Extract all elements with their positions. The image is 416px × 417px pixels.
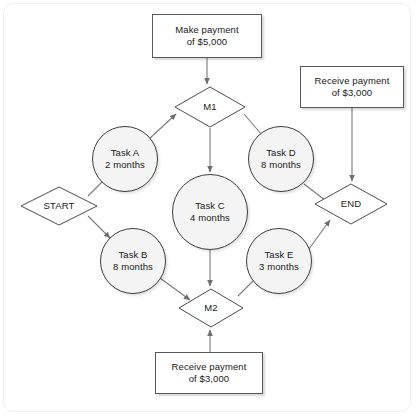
node-label-end: END [341, 198, 361, 210]
node-label-task-d: Task D 8 months [261, 147, 301, 171]
node-label-m2: M2 [204, 302, 217, 314]
node-receive-payment-3000-top[interactable]: Receive payment of $3,000 [300, 66, 404, 108]
node-task-b[interactable]: Task B 8 months [100, 228, 166, 294]
node-label-start: START [44, 200, 75, 212]
node-receive-payment-3000-bottom[interactable]: Receive payment of $3,000 [155, 352, 263, 394]
node-task-a[interactable]: Task A 2 months [92, 126, 158, 192]
node-task-c[interactable]: Task C 4 months [172, 174, 248, 250]
node-m1[interactable]: M1 [174, 86, 246, 128]
node-make-payment-5000[interactable]: Make payment of $5,000 [152, 14, 262, 58]
node-label-task-c: Task C 4 months [190, 200, 230, 224]
node-label-m1: M1 [203, 101, 216, 113]
node-label-receive-payment-3000-top: Receive payment of $3,000 [315, 75, 390, 99]
node-label-make-payment-5000: Make payment of $5,000 [175, 24, 239, 48]
node-task-d[interactable]: Task D 8 months [248, 126, 314, 192]
node-m2[interactable]: M2 [178, 288, 244, 328]
edge-task-a-to-m1 [148, 114, 176, 140]
node-label-receive-payment-3000-bottom: Receive payment of $3,000 [172, 361, 247, 385]
node-label-task-b: Task B 8 months [113, 249, 153, 273]
flowchart-diagram: Make payment of $5,000M1Receive payment … [0, 0, 416, 417]
node-start[interactable]: START [20, 186, 98, 226]
node-task-e[interactable]: Task E 3 months [246, 228, 312, 294]
node-label-task-e: Task E 3 months [259, 249, 299, 273]
node-end[interactable]: END [314, 183, 388, 225]
node-label-task-a: Task A 2 months [105, 147, 145, 171]
